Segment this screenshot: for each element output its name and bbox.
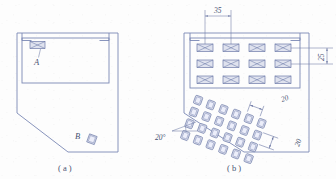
hole-square: [244, 153, 254, 164]
panel-a-label-b: B: [75, 131, 80, 141]
dim-pitch-20-vertical-text: 20: [292, 137, 303, 147]
hole-square: [248, 142, 258, 153]
panel-a-caption: ( a ): [58, 163, 72, 173]
hole-square: [227, 121, 237, 132]
panel-a-notch-right: [100, 33, 110, 41]
hole-square: [218, 104, 228, 115]
panel-b-caption: ( b ): [227, 163, 241, 173]
dim-pitch-35-text: 35: [213, 6, 222, 15]
hole-square: [185, 118, 195, 129]
hole-rect: [275, 76, 291, 84]
hole-square: [193, 95, 203, 106]
hole-square: [252, 130, 262, 141]
technical-drawing-svg: A B ( a ): [0, 0, 336, 179]
panel-b: 35 25: [155, 6, 333, 173]
hole-square: [180, 130, 190, 141]
hole-rect: [249, 76, 265, 84]
hole-rect: [275, 60, 291, 68]
hole-square: [231, 109, 241, 120]
panel-a-feature-b: B: [75, 131, 97, 145]
hole-square: [235, 137, 245, 148]
hole-square: [206, 139, 216, 150]
hole-square: [202, 111, 212, 122]
hole-rect: [197, 44, 213, 52]
hole-rect: [197, 76, 213, 84]
dim-pitch-20-horizontal: [247, 101, 263, 116]
hole-square: [244, 113, 254, 124]
hole-rect: [275, 44, 291, 52]
panel-a-feature-a: A: [30, 42, 45, 68]
hole-square: [210, 128, 220, 139]
hole-square: [189, 107, 199, 118]
dim-pitch-25: 25: [291, 48, 333, 64]
hole-square: [231, 149, 241, 160]
hole-square: [240, 125, 250, 136]
hole-rect: [223, 76, 239, 84]
hole-square: [193, 135, 203, 146]
hole-square: [218, 144, 228, 155]
panel-b-tilted-square-hole-grid: [180, 95, 266, 164]
dim-pitch-25-text: 25: [317, 53, 326, 61]
drawing-canvas: A B ( a ): [0, 0, 336, 179]
dim-angle-20-text: 20°: [155, 133, 166, 142]
dim-pitch-20-vertical: [259, 133, 278, 150]
panel-b-crossed-rect-hole-grid: [197, 44, 291, 84]
hole-square: [257, 118, 267, 129]
hole-rect: [249, 60, 265, 68]
panel-a-notch-left: [22, 33, 32, 41]
hole-rect: [223, 44, 239, 52]
dim-pitch-20-horizontal-text: 20: [280, 93, 290, 104]
hole-square: [197, 123, 207, 134]
hole-rect: [249, 44, 265, 52]
hole-rect: [197, 60, 213, 68]
panel-b-notch-left: [190, 33, 200, 41]
hole-square: [206, 100, 216, 111]
panel-a: A B ( a ): [17, 33, 118, 173]
hole-rect: [223, 60, 239, 68]
hole-square: [214, 116, 224, 127]
hole-square: [223, 132, 233, 143]
panel-a-plate-outline: [17, 33, 118, 152]
panel-b-notch-right: [291, 33, 301, 41]
panel-a-label-a: A: [33, 57, 40, 67]
